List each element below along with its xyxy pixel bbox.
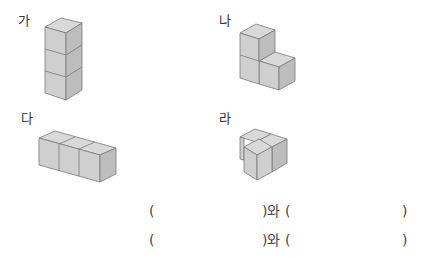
figure-label-da: 다 (21, 112, 33, 125)
answer-1-blank-1[interactable]: ( (149, 204, 154, 218)
figure-na-cubes (238, 22, 300, 94)
figure-ra-cubes (238, 128, 300, 186)
figure-label-ga: 가 (18, 14, 30, 27)
answer-row-2: ( )와 ( ) (0, 233, 421, 251)
answer-1-blank-2-close[interactable]: ) (402, 204, 407, 218)
answer-1-connector[interactable]: )와 ( (262, 204, 290, 218)
cube-side-face (66, 23, 82, 100)
answer-2-blank-1[interactable]: ( (149, 233, 154, 247)
figure-label-na: 나 (219, 14, 231, 27)
cube-front-face (45, 27, 66, 100)
answer-row-1: ( )와 ( ) (0, 204, 421, 222)
figure-label-ra: 라 (219, 112, 231, 125)
answer-2-blank-2-close[interactable]: ) (402, 233, 407, 247)
figure-da-cubes (36, 130, 122, 185)
figure-ga-cubes (40, 10, 90, 105)
answer-2-connector[interactable]: )와 ( (262, 233, 290, 247)
